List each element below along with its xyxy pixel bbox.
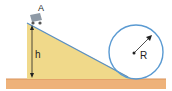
cart-label: A — [38, 3, 44, 13]
loop-track — [109, 25, 163, 79]
radius-label: R — [140, 50, 147, 61]
ground — [6, 79, 166, 89]
cart-icon — [30, 13, 42, 25]
height-label: h — [35, 49, 41, 60]
loop-the-loop-diagram: R A h — [0, 0, 172, 91]
